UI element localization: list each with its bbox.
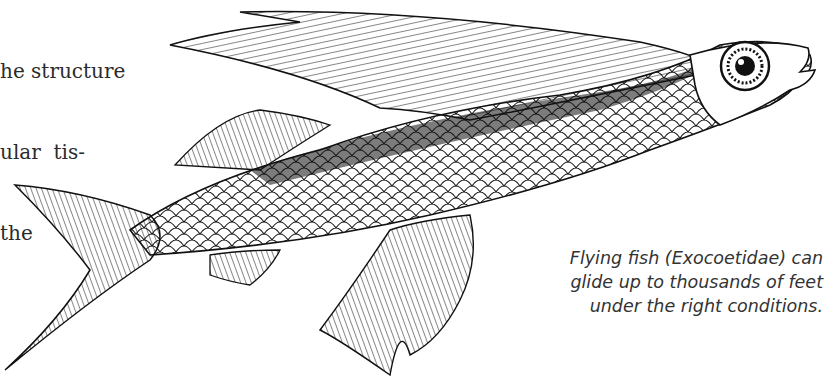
figure-caption: Flying fish (Exocoetidae) can glide up t… bbox=[493, 246, 823, 318]
caption-line: under the right conditions. bbox=[493, 294, 823, 318]
tail-fin bbox=[5, 185, 160, 370]
caption-line: glide up to thousands of feet bbox=[493, 270, 823, 294]
flying-fish-illustration bbox=[0, 0, 831, 379]
anal-fin bbox=[320, 215, 473, 375]
eye-icon bbox=[721, 42, 769, 90]
pelvic-fin bbox=[210, 250, 280, 285]
caption-line: Flying fish (Exocoetidae) can bbox=[493, 246, 823, 270]
